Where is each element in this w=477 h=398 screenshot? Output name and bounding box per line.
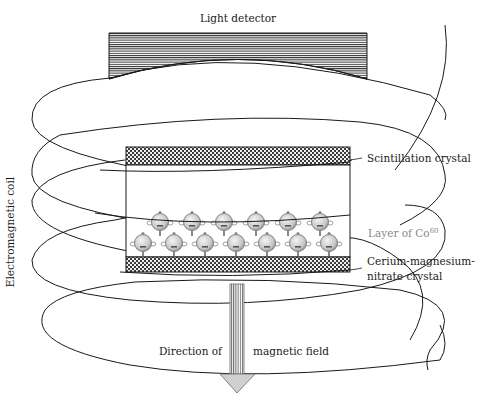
light-detector bbox=[109, 33, 367, 79]
crystal-assembly bbox=[126, 147, 350, 272]
electromagnetic-coil-label: Electromagnetic coil bbox=[4, 176, 16, 287]
magnetic-field-arrow bbox=[220, 284, 255, 393]
layer-co60-label: Layer of Co60 bbox=[368, 227, 439, 239]
scintillation-crystal-label: Scintillation crystal bbox=[367, 152, 471, 164]
cobalt-experiment-diagram: Light detector Direct bbox=[0, 0, 477, 398]
scintillation-pointer bbox=[350, 158, 362, 160]
light-detector-label: Light detector bbox=[200, 12, 277, 24]
cerium-label-line1: Cerium-magnesium- bbox=[367, 255, 475, 267]
cerium-pointer bbox=[350, 268, 362, 270]
cerium-magnesium-nitrate-crystal bbox=[126, 257, 350, 272]
direction-of-label: Direction of bbox=[159, 345, 223, 357]
cerium-label-line2: nitrate crystal bbox=[367, 270, 443, 282]
magnetic-field-label: magnetic field bbox=[253, 345, 329, 357]
scintillation-crystal bbox=[126, 147, 350, 165]
